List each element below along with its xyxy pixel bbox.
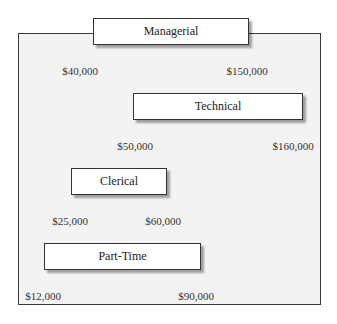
band-technical: Technical: [133, 93, 303, 120]
band-label: Managerial: [144, 24, 199, 39]
managerial-max-label: $150,000: [226, 65, 267, 77]
part-time-max-label: $90,000: [178, 290, 214, 302]
technical-max-label: $160,000: [272, 140, 313, 152]
clerical-min-label: $25,000: [52, 215, 88, 227]
band-clerical: Clerical: [71, 168, 167, 195]
band-label: Technical: [195, 99, 241, 114]
band-managerial: Managerial: [93, 18, 249, 45]
part-time-min-label: $12,000: [25, 290, 61, 302]
technical-min-label: $50,000: [117, 140, 153, 152]
clerical-max-label: $60,000: [145, 215, 181, 227]
band-label: Clerical: [100, 174, 138, 189]
band-label: Part-Time: [98, 249, 146, 264]
band-part-time: Part-Time: [44, 243, 201, 270]
managerial-min-label: $40,000: [62, 65, 98, 77]
